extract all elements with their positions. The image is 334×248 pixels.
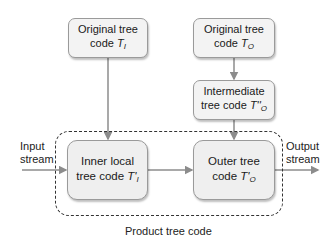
product-tree-code-caption: Product tree code [125, 225, 212, 238]
box-line1: Original tree [78, 22, 138, 36]
outer-tree-code-box: Outer tree code T'O [193, 140, 275, 200]
input-stream-label: Input stream [20, 140, 54, 166]
output-stream-label: Output stream [286, 140, 320, 166]
original-tree-code-to-box: Original tree code TO [193, 18, 275, 58]
inner-local-tree-code-box: Inner local tree code T'I [67, 140, 148, 200]
intermediate-tree-code-box: Intermediate tree code T''O [193, 80, 275, 120]
original-tree-code-ti-box: Original tree code TI [68, 18, 148, 58]
